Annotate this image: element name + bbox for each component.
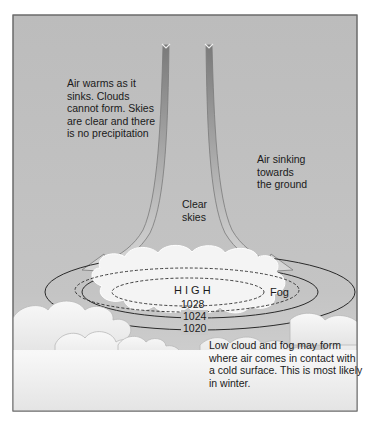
- low-cloud-fog-label: Low cloud and fog may form where air com…: [209, 339, 362, 389]
- clear-skies-label: Clear skies: [182, 198, 207, 223]
- air-warms-label: Air warms as it sinks. Clouds cannot for…: [67, 77, 155, 140]
- high-pressure-label: H I G H: [174, 284, 211, 297]
- isobar-label-1024: 1024: [181, 310, 208, 323]
- isobar-label-1028: 1028: [181, 298, 204, 311]
- isobar-label-1020: 1020: [181, 322, 208, 335]
- fog-label: Fog: [270, 286, 289, 299]
- air-sinking-label: Air sinking towards the ground: [257, 153, 307, 191]
